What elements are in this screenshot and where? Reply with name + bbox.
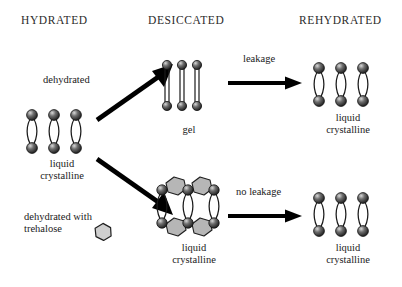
lipid-bilayer-curved-glyph bbox=[312, 61, 384, 109]
caption-line-2: crystalline bbox=[300, 124, 396, 136]
lipid-bilayer-straight-glyph bbox=[160, 60, 218, 112]
arrow-right-glyph bbox=[228, 207, 304, 225]
caption-line-1: liquid bbox=[146, 242, 242, 254]
structure-liquid-crystalline-trehalose bbox=[152, 176, 236, 238]
column-header-desiccated: DESICCATED bbox=[148, 14, 224, 26]
structure-liquid-crystalline-rehydrated-top bbox=[312, 61, 384, 109]
diagram-canvas: HYDRATED DESICCATED REHYDRATED bbox=[0, 0, 402, 287]
structure-liquid-crystalline-rehydrated-bottom bbox=[312, 191, 384, 239]
caption-liquid-crystalline-rehydrated-bottom: liquid crystalline bbox=[300, 242, 396, 265]
arrow-label-leakage: leakage bbox=[243, 53, 275, 64]
arrow-label-dehydrated-with-trehalose: dehydrated with trehalose bbox=[24, 211, 92, 235]
arrow-label-dehydrated: dehydrated bbox=[43, 74, 90, 85]
caption-liquid-crystalline-trehalose: liquid crystalline bbox=[146, 242, 242, 265]
structure-liquid-crystalline-hydrated bbox=[25, 108, 97, 156]
arrow-no-leakage bbox=[228, 207, 304, 225]
caption-line-2: crystalline bbox=[146, 254, 242, 266]
arrow-label-line-1: dehydrated with bbox=[24, 211, 92, 223]
arrow-leakage bbox=[228, 74, 304, 92]
arrow-label-line-2: trehalose bbox=[24, 223, 92, 235]
arrow-right-glyph bbox=[228, 74, 304, 92]
caption-line-2: crystalline bbox=[300, 254, 396, 266]
caption-line-1: liquid bbox=[300, 112, 396, 124]
lipid-bilayer-curved-glyph bbox=[25, 108, 97, 156]
caption-liquid-crystalline-rehydrated-top: liquid crystalline bbox=[300, 112, 396, 135]
arrow-label-no-leakage: no leakage bbox=[236, 186, 281, 197]
structure-gel bbox=[160, 60, 218, 112]
lipid-bilayer-trehalose-glyph bbox=[152, 176, 236, 238]
column-header-hydrated: HYDRATED bbox=[21, 14, 88, 26]
column-header-rehydrated: REHYDRATED bbox=[299, 14, 382, 26]
hexagon-glyph bbox=[93, 222, 113, 242]
caption-gel: gel bbox=[150, 124, 228, 136]
lipid-bilayer-curved-glyph bbox=[312, 191, 384, 239]
caption-line-1: liquid bbox=[300, 242, 396, 254]
trehalose-hexagon-icon bbox=[93, 222, 113, 242]
